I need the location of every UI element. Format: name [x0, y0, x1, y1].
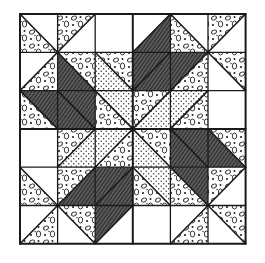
quilt-grid-lines	[20, 14, 246, 244]
quilt-square	[133, 206, 171, 244]
quilt-square	[95, 14, 133, 52]
quilt-square	[20, 129, 58, 167]
quilt-square	[208, 91, 246, 129]
quilt-block-figure	[0, 0, 265, 263]
